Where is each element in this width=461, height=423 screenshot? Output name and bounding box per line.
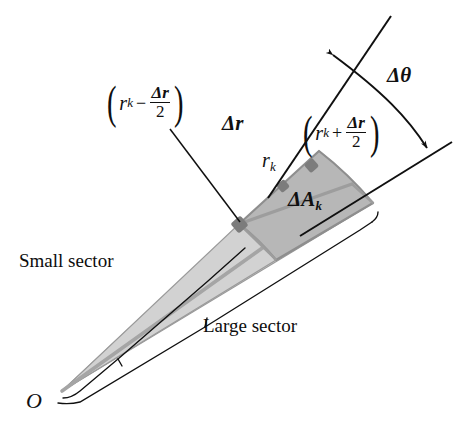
open-paren-icon: (: [303, 115, 313, 151]
inner-radius-operator: −: [136, 94, 146, 112]
inner-radius-sub: k: [127, 96, 133, 109]
inner-radius-label: ( rk − Δr 2 ): [104, 84, 187, 121]
large-sector-label: Large sector: [203, 316, 297, 335]
inner-radius-fraction: Δr 2: [150, 84, 170, 121]
open-paren-icon: (: [107, 85, 117, 121]
outer-radius-operator: +: [332, 124, 342, 142]
origin-label: O: [26, 390, 42, 412]
polar-sector-figure: ( rk − Δr 2 ) ( rk + Δr 2 ) Δr Δθ: [0, 0, 461, 423]
delta-r-tick: [244, 127, 252, 137]
r-k-label: rk: [262, 150, 276, 173]
small-sector-label: Small sector: [19, 251, 113, 270]
close-paren-icon: ): [174, 85, 184, 121]
outer-radius-sub: k: [323, 126, 329, 139]
outer-radius-denominator: 2: [352, 133, 361, 151]
r-k-var: r: [262, 149, 270, 171]
delta-area-var: ΔA: [288, 187, 315, 211]
delta-area-label: ΔAk: [288, 189, 322, 212]
r-k-sub: k: [270, 159, 276, 174]
large-sector-bracket: [58, 212, 378, 404]
outer-radius-fraction: Δr 2: [346, 114, 366, 151]
inner-radius-leader-line: [170, 129, 240, 222]
delta-area-sub: k: [315, 198, 322, 213]
outer-radius-numerator: Δr: [347, 114, 366, 131]
inner-radius-var: r: [119, 93, 127, 113]
inner-radius-numerator: Δr: [151, 84, 170, 101]
inner-radius-denominator: 2: [156, 103, 165, 121]
close-paren-icon: ): [370, 115, 380, 151]
outer-radius-label: ( rk + Δr 2 ): [300, 114, 383, 151]
delta-theta-label: Δθ: [387, 65, 411, 86]
delta-r-label: Δr: [222, 113, 243, 134]
outer-radius-var: r: [315, 123, 323, 143]
